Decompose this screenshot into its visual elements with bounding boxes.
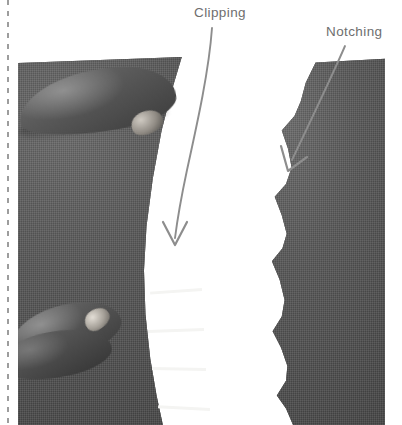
label-notching: Notching <box>326 24 382 39</box>
fabric-panel-right-notched <box>262 57 385 425</box>
label-clipping: Clipping <box>194 5 246 20</box>
clip-slit <box>148 328 204 333</box>
photograph <box>18 57 385 425</box>
clip-slit <box>152 367 206 371</box>
dashed-vertical-line-icon <box>7 0 9 425</box>
clip-slit <box>150 288 202 295</box>
clip-slit <box>158 405 210 411</box>
figure-page: Clipping Notching <box>0 0 402 425</box>
